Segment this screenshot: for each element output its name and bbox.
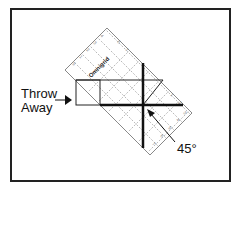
angle-label: 45° (177, 142, 197, 156)
throw-label-line2: Away (21, 101, 57, 115)
throw-away-label: Throw Away (21, 87, 57, 115)
throw-label-line1: Throw (21, 87, 57, 101)
throw-away-arrow-head (65, 95, 72, 105)
